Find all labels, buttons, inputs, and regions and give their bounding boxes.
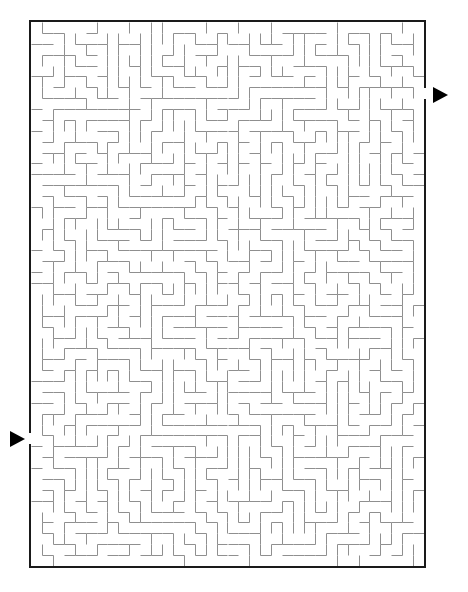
maze-page: Maze entrance exit (0, 0, 468, 592)
maze-figure (0, 0, 468, 592)
